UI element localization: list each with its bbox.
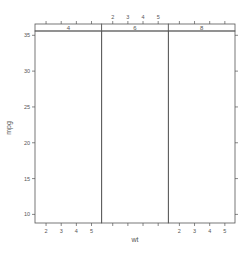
- panel-frame: [102, 31, 169, 223]
- x-tick-label: 5: [223, 228, 226, 234]
- x-tick-label: 4: [141, 14, 144, 20]
- panel-4: 42345: [35, 21, 102, 234]
- x-tick-label: 3: [193, 228, 196, 234]
- panels: 423456234582345101520253035: [24, 14, 238, 234]
- panel-frame: [35, 31, 102, 223]
- x-tick-label: 2: [178, 228, 181, 234]
- x-tick-label: 5: [157, 14, 160, 20]
- panel-6: 62345: [102, 14, 169, 226]
- panel-8: 82345: [168, 21, 235, 234]
- x-axis-label: wt: [131, 236, 139, 243]
- x-tick-label: 4: [208, 228, 211, 234]
- x-tick-label: 3: [126, 14, 129, 20]
- y-axis: 101520253035: [24, 32, 238, 217]
- x-tick-label: 2: [45, 228, 48, 234]
- y-tick-label: 10: [24, 211, 30, 217]
- y-tick-label: 30: [24, 68, 30, 74]
- y-tick-label: 15: [24, 176, 30, 182]
- lattice-chart: 423456234582345101520253035 mpg wt: [0, 0, 250, 257]
- x-tick-label: 5: [90, 228, 93, 234]
- panel-frame: [168, 31, 235, 223]
- x-tick-label: 4: [75, 228, 78, 234]
- y-tick-label: 25: [24, 104, 30, 110]
- y-axis-label: mpg: [5, 121, 13, 135]
- y-tick-label: 20: [24, 140, 30, 146]
- x-tick-label: 2: [111, 14, 114, 20]
- x-tick-label: 3: [60, 228, 63, 234]
- chart-canvas: 423456234582345101520253035 mpg wt: [0, 0, 250, 257]
- y-tick-label: 35: [24, 32, 30, 38]
